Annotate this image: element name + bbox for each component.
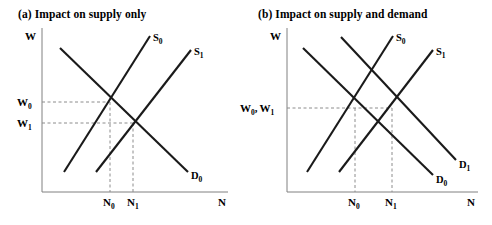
panel-b-supply-curve-s0: [307, 36, 393, 172]
panel-b-ytick-w0-w1: W0,W1: [240, 102, 275, 117]
panel-b-ytick-comma: ,: [255, 102, 258, 114]
panel-b-ytick-w1-letter: W: [260, 102, 271, 114]
svg-text:N1: N1: [127, 196, 139, 211]
panel-b-x-axis-label: N: [467, 196, 475, 208]
svg-text:S0: S0: [153, 32, 163, 46]
svg-text:S1: S1: [194, 46, 204, 60]
panel-a-ytick-w0-sub: 0: [28, 102, 32, 111]
panel-a-demand-curve-d0: [60, 48, 188, 172]
panel-a-ytick-w0-letter: W: [17, 96, 28, 108]
svg-text:W0,W1: W0,W1: [240, 102, 275, 117]
panel-a-label-d0: D0: [191, 170, 203, 184]
svg-text:N0: N0: [348, 196, 360, 211]
panel-a-xtick-n0-letter: N: [103, 196, 111, 208]
panel-b-label-s1-sub: 1: [442, 51, 446, 60]
panel-a-label-s1: S1: [194, 46, 204, 60]
panel-a-ytick-w1-sub: 1: [28, 123, 32, 132]
panel-a-label-s0: S0: [153, 32, 163, 46]
svg-text:S1: S1: [436, 46, 446, 60]
panel-b-label-s1: S1: [436, 46, 446, 60]
svg-text:W1: W1: [17, 117, 32, 132]
svg-text:D0: D0: [191, 170, 203, 184]
panel-b-label-d0-sub: 0: [444, 179, 448, 188]
panel-b-xtick-n1-letter: N: [385, 196, 393, 208]
panel-b-xtick-n1: N1: [385, 196, 397, 211]
panel-a-label-d0-sub: 0: [199, 175, 203, 184]
svg-text:W0: W0: [17, 96, 32, 111]
figure-canvas: (a) Impact on supply only W N S0 S1 D0 W…: [0, 0, 492, 225]
panel-b-ytick-w0-letter: W: [240, 102, 251, 114]
panel-b-xtick-n0: N0: [348, 196, 360, 211]
svg-text:N1: N1: [385, 196, 397, 211]
panel-a-x-axis-label: N: [218, 196, 226, 208]
panel-a-xtick-n1-sub: 1: [135, 202, 139, 211]
panel-b-label-d1-sub: 1: [467, 164, 471, 173]
panel-a-ytick-w1-letter: W: [17, 117, 28, 129]
panel-b-label-d1: D1: [459, 159, 471, 173]
panel-b: (b) Impact on supply and demand W N S0 S…: [240, 8, 478, 211]
panel-b-supply-curve-s1: [339, 50, 433, 172]
panel-b-y-axis-label: W: [270, 30, 281, 42]
panel-a-xtick-n1: N1: [127, 196, 139, 211]
svg-text:N0: N0: [103, 196, 115, 211]
economics-supply-demand-figure: (a) Impact on supply only W N S0 S1 D0 W…: [0, 0, 492, 225]
panel-b-ytick-w1-sub: 1: [271, 108, 275, 117]
panel-b-xtick-n0-sub: 0: [356, 202, 360, 211]
panel-a-ytick-w0: W0: [17, 96, 32, 111]
panel-b-label-s0-sub: 0: [402, 37, 406, 46]
panel-b-label-s0: S0: [396, 32, 406, 46]
panel-b-xtick-n0-letter: N: [348, 196, 356, 208]
panel-a-xtick-n0: N0: [103, 196, 115, 211]
panel-a-xtick-n0-sub: 0: [111, 202, 115, 211]
svg-text:D1: D1: [459, 159, 471, 173]
panel-a-title: (a) Impact on supply only: [18, 8, 147, 21]
panel-a-xtick-n1-letter: N: [127, 196, 135, 208]
panel-a: (a) Impact on supply only W N S0 S1 D0 W…: [17, 8, 228, 211]
panel-a-y-axis-label: W: [25, 30, 36, 42]
panel-b-label-d0: D0: [436, 174, 448, 188]
panel-a-supply-curve-s0: [64, 36, 150, 172]
svg-text:S0: S0: [396, 32, 406, 46]
panel-a-supply-curve-s1: [96, 50, 191, 172]
svg-text:D0: D0: [436, 174, 448, 188]
panel-a-ytick-w1: W1: [17, 117, 32, 132]
panel-b-xtick-n1-sub: 1: [393, 202, 397, 211]
panel-a-label-s0-sub: 0: [159, 37, 163, 46]
panel-a-label-s1-sub: 1: [200, 51, 204, 60]
panel-b-title: (b) Impact on supply and demand: [258, 8, 428, 21]
